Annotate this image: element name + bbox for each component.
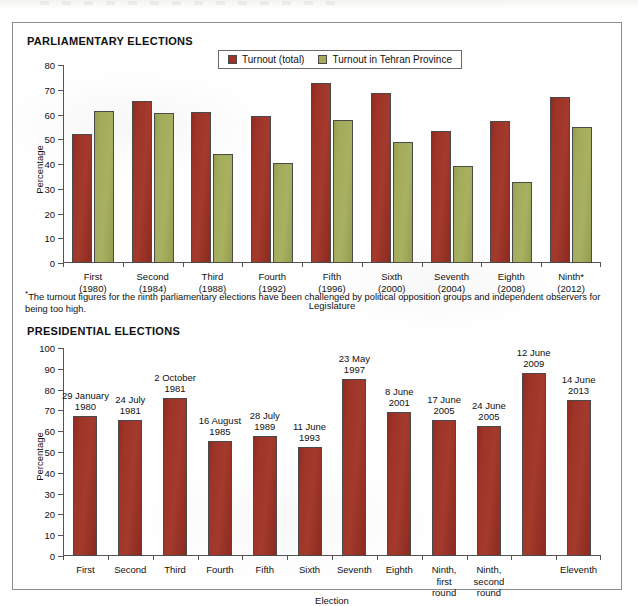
y-tick-label: 70	[44, 405, 55, 416]
y-tick-label: 50	[44, 134, 55, 145]
y-tick	[58, 214, 63, 215]
presidential-y-axis	[63, 348, 64, 556]
presidential-x-axis-label: Election	[63, 595, 601, 606]
x-tick	[183, 263, 184, 267]
parliamentary-y-axis	[63, 65, 64, 263]
bar	[73, 416, 97, 556]
y-tick-label: 40	[44, 159, 55, 170]
bar	[273, 163, 293, 263]
y-tick	[58, 494, 63, 495]
legend-swatch-olive-icon	[318, 55, 327, 64]
bar	[432, 420, 456, 556]
y-tick-label: 100	[39, 343, 55, 354]
bar-date-annotation: 12 June 2009	[503, 347, 564, 369]
y-tick-label: 10	[44, 530, 55, 541]
y-tick-label: 40	[44, 467, 55, 478]
bar-date-annotation: 23 May 1997	[324, 353, 385, 375]
bar	[550, 97, 570, 263]
x-tick	[242, 263, 243, 267]
bar	[512, 182, 532, 263]
y-tick-label: 90	[44, 363, 55, 374]
bar	[213, 154, 233, 263]
y-tick	[58, 514, 63, 515]
parliamentary-elections-chart: PARLIAMENTARY ELECTIONS Turnout (total) …	[13, 23, 621, 293]
y-tick	[58, 139, 63, 140]
y-tick-label: 50	[44, 447, 55, 458]
bar	[163, 398, 187, 556]
bar	[118, 420, 142, 556]
bar	[72, 134, 92, 263]
y-tick	[58, 535, 63, 536]
x-category-label: Ninth, second round	[463, 564, 516, 599]
bar	[333, 120, 353, 263]
x-tick	[556, 556, 557, 560]
presidential-chart-title: PRESIDENTIAL ELECTIONS	[27, 325, 180, 337]
x-tick	[481, 263, 482, 267]
bar	[208, 441, 232, 556]
legend-item-turnout-total: Turnout (total)	[228, 54, 304, 65]
parliamentary-y-axis-label: Percentage	[34, 130, 45, 210]
bar-date-annotation: 14 June 2013	[548, 374, 609, 396]
y-tick-label: 60	[44, 109, 55, 120]
x-tick	[63, 556, 64, 560]
y-tick	[58, 348, 63, 349]
x-category-label: Eleventh	[552, 564, 605, 576]
x-tick	[422, 556, 423, 560]
y-tick-label: 10	[44, 233, 55, 244]
bar	[311, 83, 331, 263]
x-tick	[242, 556, 243, 560]
x-tick	[287, 556, 288, 560]
presidential-elections-chart: PRESIDENTIAL ELECTIONS 01020304050607080…	[13, 323, 621, 591]
figure-frame: PARLIAMENTARY ELECTIONS Turnout (total) …	[12, 22, 622, 590]
bar	[251, 116, 271, 263]
y-tick-label: 20	[44, 509, 55, 520]
y-tick-label: 60	[44, 426, 55, 437]
y-tick	[58, 115, 63, 116]
legend-label-turnout-total: Turnout (total)	[242, 54, 304, 65]
bar	[490, 121, 510, 263]
bar	[387, 412, 411, 556]
bar	[154, 113, 174, 263]
y-tick-label: 80	[44, 60, 55, 71]
parliamentary-footnote: *The turnout figures for the ninth parli…	[25, 288, 615, 315]
bar	[342, 379, 366, 556]
bar	[431, 131, 451, 263]
legend-item-turnout-tehran: Turnout in Tehran Province	[318, 54, 452, 65]
y-tick	[58, 65, 63, 66]
x-tick	[541, 263, 542, 267]
x-tick	[600, 556, 601, 560]
x-tick	[198, 556, 199, 560]
scan-artifact	[0, 0, 638, 10]
footnote-text: The turnout figures for the ninth parlia…	[25, 292, 600, 314]
presidential-y-axis-label: Percentage	[34, 417, 45, 497]
bar	[298, 447, 322, 556]
y-tick-label: 20	[44, 208, 55, 219]
legend-label-turnout-tehran: Turnout in Tehran Province	[332, 54, 452, 65]
y-tick	[58, 473, 63, 474]
y-tick-label: 70	[44, 84, 55, 95]
x-tick	[123, 263, 124, 267]
bar-date-annotation: 24 July 1981	[100, 394, 161, 416]
bar	[94, 111, 114, 263]
x-tick	[422, 263, 423, 267]
bar	[567, 400, 591, 556]
bar	[132, 101, 152, 263]
parliamentary-chart-title: PARLIAMENTARY ELECTIONS	[27, 35, 193, 47]
bar-date-annotation: 24 June 2005	[459, 400, 520, 422]
x-tick	[511, 556, 512, 560]
x-tick	[332, 556, 333, 560]
bar	[191, 112, 211, 263]
x-tick	[467, 556, 468, 560]
bar	[453, 166, 473, 264]
y-tick	[58, 431, 63, 432]
bar-date-annotation: 2 October 1981	[145, 372, 206, 394]
x-tick	[600, 263, 601, 267]
presidential-plot-area: 0102030405060708090100First29 January 19…	[63, 348, 601, 556]
bar	[393, 142, 413, 263]
bar	[477, 426, 501, 556]
x-tick	[108, 556, 109, 560]
y-tick	[58, 369, 63, 370]
legend-swatch-red-icon	[228, 55, 237, 64]
y-tick	[58, 164, 63, 165]
x-tick	[377, 556, 378, 560]
